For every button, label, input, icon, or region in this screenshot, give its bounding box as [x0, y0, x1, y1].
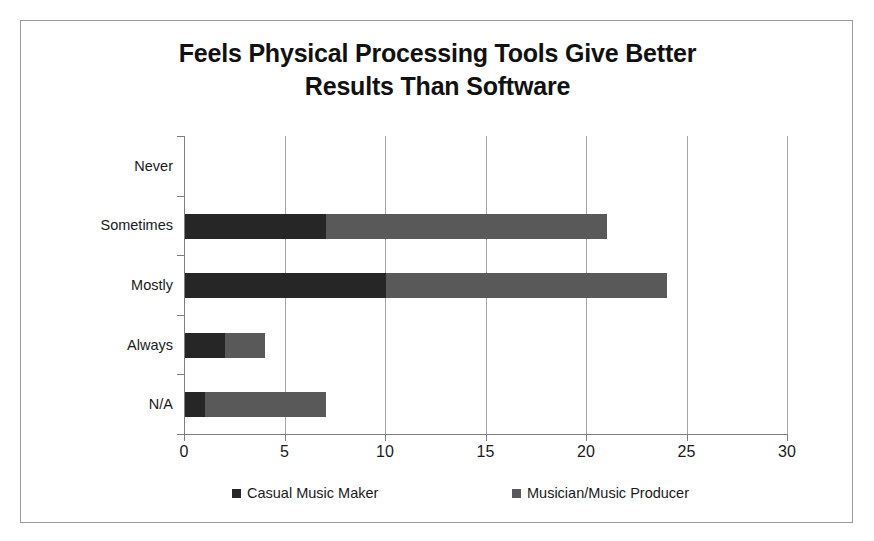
x-axis-tick-label: 0	[164, 443, 204, 461]
x-axis-tick-30	[787, 435, 788, 441]
y-axis-tick-label: Sometimes	[53, 216, 173, 234]
gridline-x-30	[787, 136, 788, 434]
x-axis-tick-label: 10	[365, 443, 405, 461]
x-axis-tick-20	[586, 435, 587, 441]
legend-swatch-icon	[232, 489, 241, 498]
bar-row	[184, 255, 787, 315]
y-axis-tick-label: Mostly	[53, 276, 173, 294]
stacked-bar	[185, 392, 326, 417]
legend-item[interactable]: Musician/Music Producer	[512, 485, 689, 501]
bar-segment	[185, 214, 326, 239]
bar-segment	[205, 392, 326, 417]
x-axis-tick-label: 5	[265, 443, 305, 461]
x-axis-tick-label: 15	[466, 443, 506, 461]
y-axis-tick	[177, 434, 184, 435]
y-axis-tick-labels: NeverSometimesMostlyAlwaysN/A	[43, 136, 173, 434]
bar-segment	[185, 392, 205, 417]
bar-row	[184, 374, 787, 434]
y-axis-tick	[177, 374, 184, 375]
legend-swatch-icon	[512, 489, 521, 498]
x-axis-tick-label: 30	[767, 443, 807, 461]
chart-legend: Casual Music MakerMusician/Music Produce…	[184, 485, 788, 509]
y-axis-tick-label: N/A	[53, 395, 173, 413]
chart-title-line-2: Results Than Software	[81, 70, 794, 103]
bar-row	[184, 196, 787, 256]
bar-segment	[185, 273, 386, 298]
x-axis-tick-0	[184, 435, 185, 441]
bar-segment	[326, 214, 607, 239]
y-axis-tick-label: Always	[53, 336, 173, 354]
chart-title-line-1: Feels Physical Processing Tools Give Bet…	[81, 37, 794, 70]
y-axis-tick	[177, 136, 184, 137]
bar-segment	[185, 333, 225, 358]
stacked-bar	[185, 214, 607, 239]
x-axis-tick-label: 20	[566, 443, 606, 461]
y-axis-tick-label: Never	[53, 157, 173, 175]
y-axis-tick	[177, 196, 184, 197]
y-axis-tick	[177, 255, 184, 256]
legend-label: Casual Music Maker	[247, 485, 378, 501]
x-axis-tick-5	[285, 435, 286, 441]
legend-item[interactable]: Casual Music Maker	[232, 485, 378, 501]
plot-area	[184, 136, 787, 434]
x-axis-tick-15	[486, 435, 487, 441]
bar-segment	[225, 333, 265, 358]
chart-frame: Feels Physical Processing Tools Give Bet…	[20, 20, 853, 523]
x-axis-tick-label: 25	[667, 443, 707, 461]
y-axis-tick	[177, 315, 184, 316]
legend-label: Musician/Music Producer	[527, 485, 689, 501]
x-axis-tick-25	[687, 435, 688, 441]
bar-segment	[386, 273, 667, 298]
bar-row	[184, 136, 787, 196]
x-axis-tick-10	[385, 435, 386, 441]
bar-row	[184, 315, 787, 375]
chart-title: Feels Physical Processing Tools Give Bet…	[81, 37, 794, 103]
stacked-bar	[185, 333, 265, 358]
stacked-bar	[185, 273, 667, 298]
